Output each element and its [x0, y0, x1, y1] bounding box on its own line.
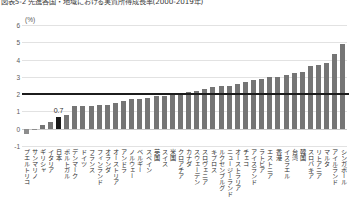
bar-series: 0.7 — [22, 25, 347, 146]
bar — [194, 91, 199, 129]
gridline — [22, 146, 347, 147]
bar — [145, 98, 150, 129]
category-label: シンガポール — [340, 149, 346, 185]
bar — [105, 105, 110, 129]
category-label: アイスランド — [250, 149, 256, 185]
bar — [64, 115, 69, 129]
bar — [340, 44, 345, 129]
category-label: ベルギー — [137, 149, 143, 173]
category-label: ニュージーランド — [226, 149, 232, 197]
bar — [251, 80, 256, 128]
bar — [178, 94, 183, 129]
category-label: ラトビア — [259, 149, 265, 173]
bar — [275, 77, 280, 129]
bar — [219, 86, 224, 129]
category-label: フィンランド — [96, 149, 102, 185]
y-axis-tick: 3 — [2, 73, 20, 80]
bar — [227, 86, 232, 129]
bar — [186, 92, 191, 128]
category-label: チェコ — [242, 149, 248, 167]
bar — [284, 75, 289, 129]
category-label: サンマリノ — [31, 149, 37, 179]
chart-title: 図表5-2 先進各国・地域における実質所得成長率(2000-2019年) — [1, 0, 203, 6]
bar — [56, 117, 61, 129]
bar — [137, 99, 142, 128]
category-label: 日本 — [55, 149, 61, 161]
bar — [292, 73, 297, 128]
y-axis-tick: 5 — [2, 39, 20, 46]
x-axis-category-labels: プエルトリコサンマリノギリシャイタリア日本ポルトガルデンマークドイツフランスフィ… — [22, 149, 349, 217]
bar — [40, 125, 45, 128]
bar — [97, 105, 102, 129]
y-axis-tick: -1 — [2, 143, 20, 150]
bar — [170, 94, 175, 129]
bar — [48, 122, 53, 129]
category-label: キプロス — [210, 149, 216, 173]
category-label: 香港 — [275, 149, 281, 161]
category-label: プエルトリコ — [23, 149, 29, 185]
category-label: エストニア — [267, 149, 273, 179]
category-label: 韓国 — [299, 149, 305, 161]
y-axis-tick-labels: -10123456 — [0, 25, 20, 146]
category-label: マルタ — [324, 149, 330, 167]
category-label: デンマーク — [72, 149, 78, 179]
category-label: イスラエル — [283, 149, 289, 179]
plot-area: 0.7 — [22, 25, 347, 146]
y-axis-tick: 1 — [2, 108, 20, 115]
bar — [89, 106, 94, 128]
category-label: ルクセンブルグ — [218, 149, 224, 191]
bar — [154, 96, 159, 129]
category-label: スロバキア — [307, 149, 313, 179]
category-label: オーストラリア — [234, 149, 240, 191]
bar — [316, 65, 321, 129]
bar — [32, 129, 37, 131]
category-label: イタリア — [47, 149, 53, 173]
y-axis-tick: 2 — [2, 91, 20, 98]
bar — [129, 99, 134, 128]
category-label: 台湾 — [291, 149, 297, 161]
category-label: アイルランド — [332, 149, 338, 185]
y-axis-unit-label: (%) — [25, 16, 35, 23]
category-label: アンドラ — [120, 149, 126, 173]
bar — [324, 63, 329, 129]
category-label: フランス — [88, 149, 94, 173]
category-label: 英国 — [153, 149, 159, 161]
y-axis-tick: 6 — [2, 22, 20, 29]
category-label: クロアチア — [177, 149, 183, 179]
bar — [72, 106, 77, 128]
category-label: 米国 — [169, 149, 175, 161]
category-label: スロヴェニア — [202, 149, 208, 185]
category-label: オランダ — [104, 149, 110, 173]
category-label: スウェーデン — [194, 149, 200, 185]
category-label: ギリシャ — [39, 149, 45, 173]
bar — [300, 72, 305, 129]
chart-container: 図表5-2 先進各国・地域における実質所得成長率(2000-2019年) (%)… — [0, 0, 349, 217]
bar — [113, 103, 118, 129]
bar — [162, 96, 167, 129]
y-axis-tick: 0 — [2, 125, 20, 132]
bar — [259, 79, 264, 129]
category-label: ノルウェー — [129, 149, 135, 179]
category-label: ポルトガル — [64, 149, 70, 179]
category-label: ドイツ — [80, 149, 86, 167]
category-label: オーストリア — [112, 149, 118, 185]
bar-data-label: 0.7 — [54, 107, 64, 114]
bar — [80, 106, 85, 128]
category-label: カナダ — [185, 149, 191, 167]
bar — [24, 129, 29, 134]
reference-line — [22, 93, 349, 95]
category-label: リトアニア — [315, 149, 321, 179]
bar — [267, 77, 272, 129]
bar — [243, 82, 248, 129]
bar — [308, 66, 313, 128]
bar — [235, 84, 240, 129]
category-label: スペイン — [145, 149, 151, 173]
bar — [121, 101, 126, 129]
category-label: スイス — [161, 149, 167, 167]
chart-title-strip: 図表5-2 先進各国・地域における実質所得成長率(2000-2019年) — [0, 0, 349, 7]
y-axis-tick: 4 — [2, 56, 20, 63]
bar — [332, 54, 337, 128]
